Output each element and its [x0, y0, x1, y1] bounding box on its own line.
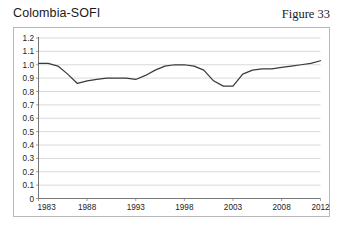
y-axis-tick-label: 1.1 [23, 47, 35, 56]
y-axis-tick-label: 0.7 [23, 101, 35, 110]
x-axis-tick-label: 2003 [224, 203, 243, 212]
y-axis-tick-label: 0.2 [23, 168, 35, 177]
y-axis-tick-label: 0.5 [23, 128, 35, 137]
x-axis-tick-label: 2008 [272, 203, 291, 212]
y-axis-tick-label: 0.8 [23, 88, 35, 97]
y-axis-tick-label: 0 [29, 195, 34, 204]
x-axis-tick-label: 2012 [311, 203, 330, 212]
x-axis-tick-label: 1988 [78, 203, 97, 212]
x-axis-tick-label: 1998 [175, 203, 194, 212]
x-axis-tick-label: 1993 [127, 203, 146, 212]
y-axis-tick-label: 1.2 [23, 34, 35, 43]
y-axis-tick-label: 1.0 [23, 61, 35, 70]
y-axis-tick-label: 0.3 [23, 154, 35, 163]
y-axis-tick-label: 0.1 [23, 181, 35, 190]
x-axis-tick-label: 1983 [38, 203, 57, 212]
y-axis-tick-label: 0.9 [23, 74, 35, 83]
figure-container: Colombia-SOFI Figure 33 00.10.20.30.40.5… [0, 0, 344, 231]
chart-plot-area: 00.10.20.30.40.50.60.70.80.91.01.11.2198… [0, 0, 344, 231]
line-chart: 00.10.20.30.40.50.60.70.80.91.01.11.2198… [0, 0, 344, 231]
y-axis-tick-label: 0.6 [23, 114, 35, 123]
y-axis-tick-label: 0.4 [23, 141, 35, 150]
